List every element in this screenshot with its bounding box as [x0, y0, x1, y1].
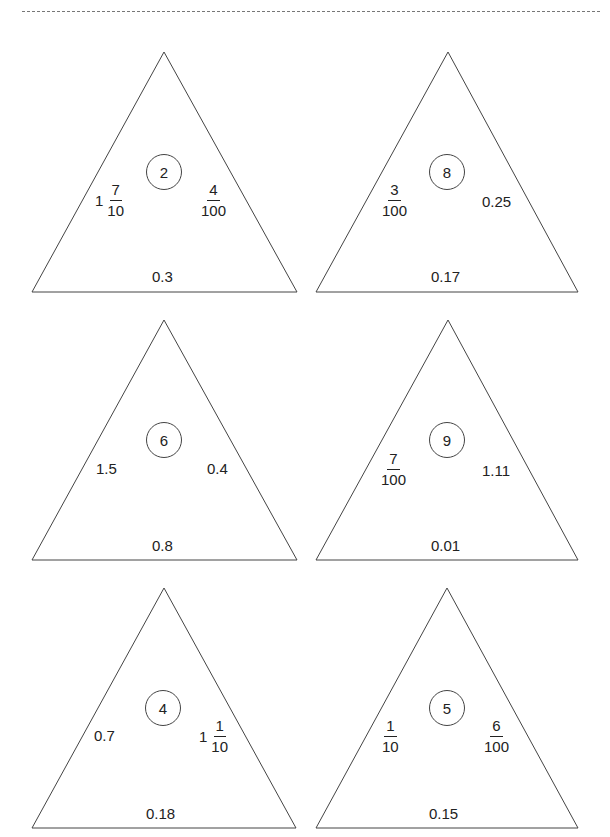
triangle-outline — [0, 0, 610, 837]
left-value: 110 — [380, 718, 401, 755]
denominator: 10 — [380, 737, 401, 755]
numerator: 1 — [384, 718, 396, 737]
right-value: 6100 — [482, 718, 511, 755]
center-number: 5 — [443, 700, 451, 717]
bottom-value: 0.15 — [429, 806, 458, 822]
center-number-circle: 5 — [429, 690, 465, 726]
numerator: 6 — [490, 718, 502, 737]
denominator: 100 — [482, 737, 511, 755]
